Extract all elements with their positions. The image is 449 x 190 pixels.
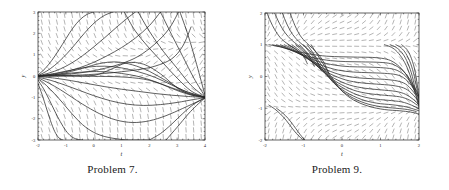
slope-field-dash: [370, 20, 373, 24]
slope-field-dash: [115, 55, 120, 56]
slope-field-dash: [168, 41, 173, 43]
slope-field-dash: [347, 70, 352, 71]
slope-field-dash: [49, 121, 51, 126]
slope-field-dash: [311, 123, 315, 126]
slope-field-dash: [310, 118, 315, 120]
slope-field-dash: [275, 74, 277, 79]
slope-field-dash: [155, 26, 157, 31]
slope-field-dash: [310, 94, 315, 96]
slope-field-dash: [362, 33, 367, 35]
slope-field-dash: [155, 20, 156, 25]
slope-field-dash: [79, 107, 81, 112]
slope-field-dash: [275, 80, 277, 84]
slope-field-dash: [296, 75, 299, 79]
slope-field-dash: [94, 121, 95, 126]
slope-field-dash: [296, 112, 301, 114]
slope-field-dash: [49, 13, 50, 18]
slope-field-dash: [161, 54, 165, 57]
slope-field-dash: [64, 114, 66, 119]
slope-field-dash: [282, 32, 285, 36]
slope-field-dash: [332, 94, 337, 95]
slope-field-dash: [109, 40, 112, 44]
y-axis-title-group: y: [246, 75, 253, 79]
slope-field-dash: [184, 67, 187, 71]
slope-field-dash: [101, 88, 105, 91]
slope-field-dash: [48, 47, 50, 52]
slope-field-dash: [115, 82, 120, 84]
slope-field-dash: [370, 135, 373, 139]
slope-field-dash: [283, 135, 284, 140]
slope-field-dash: [72, 20, 73, 25]
solution-curve: [38, 12, 135, 76]
slope-field-dash: [56, 26, 57, 31]
slope-field-dash: [186, 13, 187, 18]
slope-field-dash: [385, 135, 387, 140]
slope-field-dash: [133, 121, 134, 126]
slope-field-dash: [117, 13, 118, 18]
y-tick-label: -1: [259, 106, 264, 111]
slope-field-dash: [95, 134, 96, 139]
slope-field-dash: [102, 20, 103, 25]
slope-field-dash: [71, 40, 73, 45]
slope-field-dash: [414, 32, 416, 36]
slope-field-dash: [117, 33, 119, 38]
slope-field-dash: [325, 100, 330, 101]
figure-page: -2-101234-3-2-10123ty Problem 7. -2-1012…: [0, 0, 449, 190]
slope-field-dash: [408, 14, 409, 19]
slope-field-dash: [297, 14, 299, 19]
slope-field-dash: [108, 47, 112, 50]
slope-field-dash: [318, 94, 323, 95]
slope-field-dash: [268, 80, 270, 85]
slope-field-dash: [385, 129, 387, 133]
slope-field-dash: [72, 127, 73, 132]
slope-field-dash: [78, 94, 81, 98]
slope-field-dash: [414, 56, 417, 60]
slope-field-dash: [163, 121, 164, 126]
slope-field-dash: [347, 27, 352, 29]
slope-field-dash: [140, 121, 141, 126]
slope-field-dash: [56, 20, 57, 25]
slope-field-dash: [154, 88, 158, 91]
slope-field-dash: [376, 40, 381, 41]
slope-field-dash: [303, 81, 307, 84]
slope-field-dash: [325, 14, 329, 17]
slope-field-dash: [347, 130, 351, 132]
y-tick-label: -1: [32, 95, 37, 100]
slope-field-dash: [79, 26, 81, 31]
slope-field-dash: [282, 87, 285, 91]
slope-field-dash: [49, 33, 51, 38]
slope-field-dash: [138, 41, 142, 44]
slope-field-dash: [94, 40, 97, 44]
slope-field-dash: [185, 20, 186, 25]
slope-field-dash: [384, 87, 388, 90]
slope-field-dash: [406, 46, 411, 47]
slope-field-dash: [399, 93, 402, 97]
slope-field-dash: [289, 74, 292, 78]
slope-field-dash: [176, 74, 180, 77]
slope-field-dash: [369, 63, 373, 65]
slope-field-dash: [347, 100, 352, 101]
slope-field-dash: [56, 121, 58, 126]
slope-field-dash: [101, 94, 104, 98]
slope-field-dash: [369, 112, 374, 113]
slope-field-dash: [400, 123, 402, 128]
solution-curve: [282, 13, 321, 70]
direction-field-plot-problem-7: -2-101234-3-2-10123ty: [0, 0, 225, 163]
x-tick-label: 1: [379, 143, 382, 148]
slope-field-dash: [41, 47, 43, 52]
slope-field-dash: [400, 14, 401, 19]
slope-field-dash: [63, 88, 67, 92]
slope-field-dash: [199, 47, 203, 51]
slope-field-dash: [64, 13, 65, 18]
slope-field-dash: [354, 52, 359, 53]
slope-field-dash: [392, 129, 394, 134]
slope-field-dash: [347, 58, 352, 59]
slope-field-dash: [296, 100, 301, 102]
slope-field-dash: [147, 107, 148, 112]
slope-field-dash: [369, 40, 374, 41]
slope-field-dash: [117, 20, 118, 25]
slope-field-dash: [288, 112, 293, 114]
slope-field-dash: [355, 21, 359, 24]
slope-field-dash: [124, 94, 127, 98]
slope-field-dash: [115, 69, 120, 70]
